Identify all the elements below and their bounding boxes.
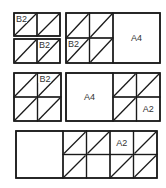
sheet-size-label: A4 bbox=[84, 92, 95, 102]
sheet-size-label: A2 bbox=[143, 104, 154, 114]
diagonal-fold-line bbox=[135, 132, 157, 154]
layout-group-row1-right: A4B2 bbox=[66, 13, 160, 63]
diagonal-fold-line bbox=[67, 14, 89, 37]
sheet-cell bbox=[14, 39, 37, 63]
sheet-cell bbox=[113, 97, 137, 121]
sheet-cell bbox=[37, 13, 60, 36]
sheet-size-label: B2 bbox=[16, 14, 27, 24]
layout-group-row2-left: B2 bbox=[14, 73, 61, 121]
diagonal-fold-line bbox=[15, 40, 36, 62]
diagonal-fold-line bbox=[114, 98, 136, 120]
sheet-cell bbox=[87, 131, 111, 155]
diagonal-fold-line bbox=[91, 14, 113, 37]
sheet-cell bbox=[90, 38, 114, 63]
diagonal-fold-line bbox=[91, 39, 113, 62]
diagonal-fold-line bbox=[39, 98, 61, 120]
diagonal-fold-line bbox=[64, 156, 86, 178]
sheet-size-label: B2 bbox=[39, 40, 50, 50]
sheet-cell bbox=[137, 73, 161, 97]
sheet-cell: A2 bbox=[110, 131, 134, 155]
diagonal-fold-line bbox=[64, 132, 86, 154]
sheet-cell: B2 bbox=[37, 39, 60, 63]
sheet-cell: B2 bbox=[14, 13, 37, 36]
sheet-cell: B2 bbox=[38, 73, 62, 97]
sheet-cell bbox=[110, 155, 134, 179]
sheet-cell bbox=[14, 97, 38, 121]
diagonal-fold-line bbox=[38, 14, 59, 35]
sheet-cell: B2 bbox=[66, 38, 90, 63]
sheet-cell bbox=[63, 155, 87, 179]
sheet-cell bbox=[134, 131, 158, 155]
sheet-cell bbox=[90, 13, 114, 38]
sheet-size-label: A2 bbox=[116, 138, 127, 148]
sheet-cell bbox=[63, 131, 87, 155]
diagonal-fold-line bbox=[114, 74, 136, 96]
sheet-layout-diagram: B2B2A4B2B2A4A2A2 bbox=[0, 0, 166, 188]
sheet-cell bbox=[87, 155, 111, 179]
sheet-size-label: B2 bbox=[40, 74, 51, 84]
diagonal-fold-line bbox=[88, 132, 110, 154]
sheet-cell bbox=[14, 73, 38, 97]
layout-group-row2-right: A4A2 bbox=[66, 73, 160, 121]
sheet-cell bbox=[38, 97, 62, 121]
diagonal-fold-line bbox=[15, 74, 37, 96]
diagonal-fold-line bbox=[15, 98, 37, 120]
sheet-size-label: B2 bbox=[68, 39, 79, 49]
sheet-cell: A2 bbox=[137, 97, 161, 121]
layout-group-row1-left: B2B2 bbox=[14, 13, 60, 63]
sheet-cell bbox=[66, 13, 90, 38]
diagonal-fold-line bbox=[138, 74, 160, 96]
sheet-cell bbox=[113, 73, 137, 97]
diagonal-fold-line bbox=[111, 156, 133, 178]
layout-group-row3: A2 bbox=[16, 131, 157, 178]
large-sheet-region bbox=[16, 131, 63, 178]
sheet-cell bbox=[134, 155, 158, 179]
diagonal-fold-line bbox=[135, 156, 157, 178]
sheet-size-label: A4 bbox=[131, 33, 142, 43]
